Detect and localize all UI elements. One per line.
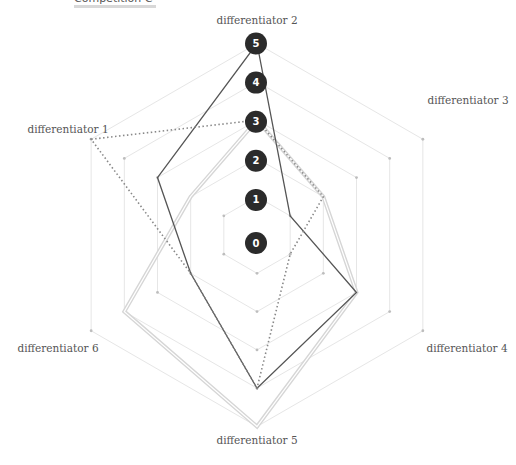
tick-label: 1 xyxy=(253,194,260,205)
grid-dot xyxy=(222,253,225,256)
series-line-solid xyxy=(157,44,356,389)
axis-label-2: differentiator 2 xyxy=(216,14,297,26)
series-line-dotted xyxy=(91,120,323,388)
grid-dot xyxy=(256,310,259,313)
grid-dot xyxy=(388,310,391,313)
grid-dot xyxy=(222,214,225,217)
axis-label-3: differentiator 3 xyxy=(427,94,508,106)
grid-dot xyxy=(256,349,259,352)
grid-dot xyxy=(90,329,93,332)
tick-label: 4 xyxy=(253,77,260,88)
axis-label-4: differentiator 4 xyxy=(426,342,507,354)
radar-tick-labels: 012345 xyxy=(245,33,267,255)
axis-label-5: differentiator 5 xyxy=(216,434,297,446)
tick-label: 2 xyxy=(253,155,260,166)
grid-dot xyxy=(421,329,424,332)
grid-dot xyxy=(156,291,159,294)
grid-dot xyxy=(256,272,259,275)
grid-dot xyxy=(388,157,391,160)
grid-dot xyxy=(123,157,126,160)
tick-label: 0 xyxy=(253,238,260,249)
series-line-light-inner xyxy=(124,120,356,426)
axis-label-6: differentiator 6 xyxy=(17,342,98,354)
axis-label-1: differentiator 1 xyxy=(27,123,108,135)
tick-label: 3 xyxy=(253,116,260,127)
series-line-light xyxy=(124,120,356,426)
grid-dot xyxy=(322,272,325,275)
radar-chart: 012345 differentiator 1differentiator 2d… xyxy=(0,0,516,465)
grid-dot xyxy=(421,138,424,141)
tick-label: 5 xyxy=(253,38,260,49)
grid-dot xyxy=(355,176,358,179)
